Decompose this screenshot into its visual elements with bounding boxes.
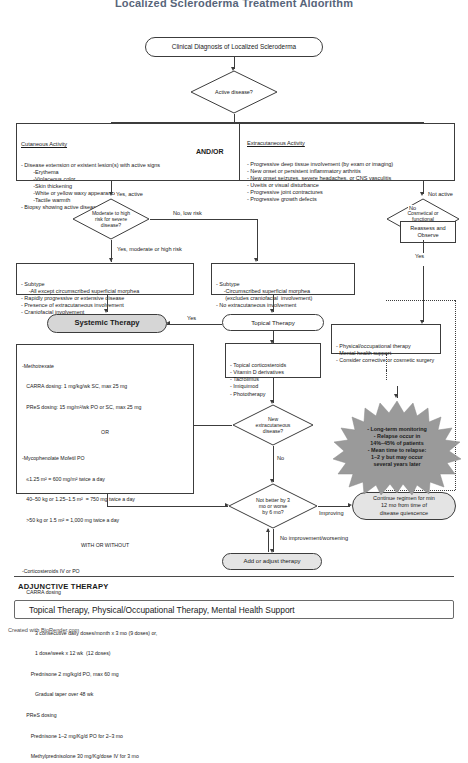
regimen-line-17: Methylprednisolone 30 mg/Kg/dose IV for … (22, 753, 188, 760)
diamond-shape (72, 198, 150, 240)
connector-dotted-supportive-2 (386, 370, 387, 380)
extracutaneous-heading: Extracutaneous Activity (247, 140, 451, 147)
box-systemic-regimen: -Methotrexate CARRA dosing: 1 mg/kg/wk S… (16, 344, 194, 494)
adjunctive-banner-label: Topical Therapy, Physical/Occupational T… (29, 605, 295, 615)
regimen-line-5: ≤1.25 m² = 600 mg/m² twice a day (22, 476, 188, 483)
node-topical-therapy-label: Topical Therapy (251, 319, 295, 326)
arrowhead (270, 309, 274, 313)
subtype-topical-body: - Subtype -Circumscribed superficial mor… (216, 281, 350, 309)
diamond-shape (228, 483, 318, 529)
connector-improving (318, 506, 350, 507)
edge-label-yes-moderate-high: Yes, moderate or high risk (116, 246, 183, 252)
connector-regimen-to-notbetter (107, 506, 228, 507)
regimen-with-or-without: WITH OR WITHOUT (22, 542, 188, 549)
connector-dotted-supportive (386, 354, 387, 370)
regimen-line-7: >50 kg or 1.5 m² = 1,000 mg twice a day (22, 517, 188, 524)
decision-not-better[interactable]: Not better by 3 mo or worse by 6 mo? (228, 483, 318, 529)
edge-label-no-cosmetic: No (408, 205, 417, 211)
edge-label-improving: Improving (318, 510, 345, 516)
node-continue-regimen-label: Continue regimen for min 12 mo from time… (373, 495, 435, 516)
edge-label-yes-cosmetic: Yes (414, 253, 425, 259)
box-subtype-systemic-criteria: - Subtype -All except circumscribed supe… (16, 263, 194, 295)
regimen-or: OR (22, 429, 188, 436)
connector-no-low-risk (150, 219, 257, 220)
connector-cosmetic-yes-2 (423, 266, 424, 322)
adjunctive-therapy-title: ADJUNCTIVE THERAPY (18, 582, 109, 591)
connector-topical-to-systemic-yes (167, 324, 222, 325)
callout-long-term-monitoring: - Long-term monitoring - Relapse occur i… (333, 399, 461, 495)
edge-label-no-improvement: No improvement/worsening (279, 535, 349, 541)
regimen-line-2: CARRA dosing: 1 mg/kg/wk SC, max 25 mg (22, 383, 188, 390)
arrowhead (109, 258, 113, 262)
node-clinical-diagnosis[interactable]: Clinical Diagnosis of Localized Sclerode… (145, 37, 323, 57)
adjunctive-divider (14, 576, 454, 577)
decision-active-disease[interactable]: Active disease? (190, 70, 278, 114)
connector-regimen-down (107, 494, 108, 506)
box-subtype-topical-criteria: - Subtype -Circumscribed superficial mor… (211, 263, 355, 295)
callout-monitoring-text: - Long-term monitoring - Relapse occur i… (333, 399, 461, 495)
connector-feedback-up (268, 529, 269, 552)
diamond-shape (190, 70, 278, 114)
adjunctive-therapy-banner: Topical Therapy, Physical/Occupational T… (14, 600, 454, 619)
arrowhead (394, 394, 398, 398)
connector-dotted-top-rail (386, 300, 455, 301)
edge-label-not-active: Not active (427, 191, 454, 197)
connector-newextra-to-systemic (194, 425, 232, 426)
arrowhead (254, 258, 258, 262)
arrowhead (266, 528, 270, 532)
decision-new-extracutaneous[interactable]: New extracutaneous disease? (232, 404, 314, 446)
regimen-line-4: -Mycophenolate Mofetil PO (22, 455, 188, 462)
regimen-line-16: Prednisone 1–2 mg/Kg/d PO for 2–3 mo (22, 733, 188, 740)
node-systemic-therapy-label: Systemic Therapy (75, 319, 140, 328)
node-continue-regimen[interactable]: Continue regimen for min 12 mo from time… (352, 492, 456, 520)
biorender-credit: Created with BioRender.com (8, 627, 79, 633)
arrowhead (166, 321, 170, 325)
edge-label-yes-topical-to-systemic: Yes (186, 315, 197, 321)
regimen-line-15: PReS dosing (22, 712, 188, 719)
regimen-line-1: -Methotrexate (22, 363, 188, 370)
node-systemic-therapy[interactable]: Systemic Therapy (47, 314, 167, 333)
regimen-line-3: PReS dosing: 15 mg/m²/wk PO or SC, max 2… (22, 404, 188, 411)
arrowhead (104, 309, 108, 313)
decision-severe-risk[interactable]: Moderate to high risk for severe disease… (72, 198, 150, 240)
node-topical-therapy[interactable]: Topical Therapy (222, 314, 324, 331)
regimen-line-8: -Corticosteroids IV or PO (22, 568, 188, 575)
regimen-line-6: 40–50 kg or 1.25–1.5 m² = 750 mg twice a… (22, 496, 188, 503)
node-add-or-adjust-therapy[interactable]: Add or adjust therapy (222, 553, 322, 570)
node-add-adjust-label: Add or adjust therapy (243, 558, 300, 565)
box-reassess-observe: Reassess and Observe (400, 221, 456, 243)
diamond-shape (232, 404, 314, 446)
regimen-line-13: Prednisone 2 mg/kg/d PO, max 60 mg (22, 671, 188, 678)
page-title: Localized Scleroderma Treatment Algorith… (0, 0, 468, 7)
arrowhead (420, 192, 424, 196)
box-supportive-care: - Physical/occupational therapy - Mental… (331, 324, 441, 354)
regimen-line-12: 1 dose/week x 12 wk (12 doses) (22, 650, 188, 657)
regimen-line-14: Gradual taper over 48 wk (22, 691, 188, 698)
box-topical-treatments: - Topical corticosteroids - Vitamin D de… (225, 343, 321, 378)
edge-label-yes-active: Yes, active (115, 191, 144, 197)
label-and-or: AND/OR (196, 148, 224, 155)
box-extracutaneous-activity: Extracutaneous Activity - Progressive de… (243, 123, 455, 181)
arrowhead (109, 192, 113, 196)
connector-newextra-no (273, 446, 274, 482)
edge-label-no-low-risk: No, low risk (172, 210, 203, 216)
edge-label-no-new-extracutaneous: No (276, 455, 285, 461)
arrowhead (225, 503, 229, 507)
node-clinical-diagnosis-label: Clinical Diagnosis of Localized Sclerode… (172, 43, 296, 50)
connector-no-low-risk-drop (257, 219, 258, 261)
